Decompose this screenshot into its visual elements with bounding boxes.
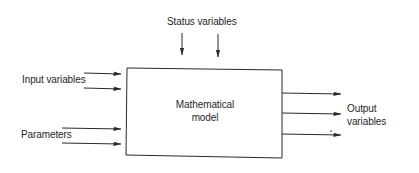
output-variables-label-line1: Output <box>347 103 376 115</box>
output-arrow-2 <box>282 113 341 114</box>
parameters-label: Parameters <box>21 129 72 141</box>
output-arrow-3 <box>282 134 341 135</box>
output-arrow-1 <box>282 93 341 94</box>
parameter-arrow-2 <box>62 143 121 144</box>
input-arrow-1 <box>84 73 121 74</box>
model-label-line2: model <box>170 112 240 124</box>
stray-dot <box>330 130 332 132</box>
input-variables-label: Input variables <box>22 74 86 86</box>
model-label-line1: Mathematical <box>170 99 240 111</box>
input-arrow-2 <box>84 88 121 89</box>
output-variables-label-line2: variables <box>347 116 386 128</box>
status-variables-label: Status variables <box>167 16 237 28</box>
